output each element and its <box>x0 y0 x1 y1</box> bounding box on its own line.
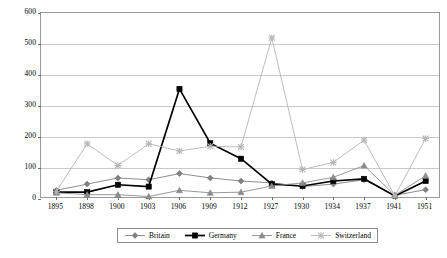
legend-item-label: France <box>276 231 296 240</box>
data-point-star <box>207 143 214 150</box>
data-point-star <box>53 188 60 195</box>
data-point-triangle <box>423 173 429 179</box>
x-axis-tick-label: 1903 <box>140 203 155 211</box>
legend-item-germany[interactable]: Germany <box>184 231 237 240</box>
data-point-diamond <box>423 187 429 193</box>
x-axis-tick-label: 1900 <box>109 203 124 211</box>
data-point-square <box>115 182 120 187</box>
legend-marker-square-icon <box>184 231 206 240</box>
data-point-star <box>299 166 306 173</box>
legend-item-france[interactable]: France <box>251 231 296 240</box>
x-axis-tick-label: 1930 <box>294 203 309 211</box>
line-chart: 0100200300400500600 18951898190019031906… <box>0 0 447 258</box>
x-axis-tick-label: 1937 <box>355 203 370 211</box>
data-point-square <box>192 233 197 238</box>
legend-item-britain[interactable]: Britain <box>124 231 170 240</box>
data-point-square <box>361 176 366 181</box>
data-point-diamond <box>132 233 138 239</box>
data-point-star <box>330 159 337 166</box>
data-point-triangle <box>176 187 182 193</box>
data-point-diamond <box>115 175 121 181</box>
series-layer <box>41 13 441 199</box>
x-axis-tick-label: 1906 <box>171 203 186 211</box>
data-point-square <box>423 178 428 183</box>
data-point-star <box>268 34 275 41</box>
data-point-diamond <box>238 178 244 184</box>
y-axis-tick-label: 500 <box>24 39 36 47</box>
x-axis-tick-label: 1927 <box>263 203 278 211</box>
x-axis-tick-label: 1951 <box>417 203 432 211</box>
data-point-square <box>177 86 182 91</box>
data-point-star <box>115 162 122 169</box>
series-switzerland <box>53 34 429 199</box>
data-point-triangle <box>361 162 367 168</box>
data-point-star <box>84 140 91 147</box>
x-axis-tick-label: 1898 <box>78 203 93 211</box>
legend-item-label: Germany <box>209 231 237 240</box>
series-line <box>56 38 425 196</box>
data-point-diamond <box>207 175 213 181</box>
data-point-star <box>238 144 245 151</box>
data-point-star <box>176 148 183 155</box>
x-axis-tick-label: 1934 <box>325 203 340 211</box>
legend-marker-diamond-icon <box>124 231 146 240</box>
legend-marker-triangle-icon <box>251 231 273 240</box>
x-axis-tick-label: 1909 <box>202 203 217 211</box>
y-axis-tick-label: 0 <box>32 194 36 202</box>
data-point-star <box>145 140 152 147</box>
data-point-square <box>238 156 243 161</box>
data-point-diamond <box>176 171 182 177</box>
x-axis-tick-label: 1895 <box>48 203 63 211</box>
y-axis-tick-label: 100 <box>24 163 36 171</box>
y-axis-tick-label: 400 <box>24 70 36 78</box>
data-point-square <box>146 184 151 189</box>
y-axis-tick-mark <box>38 199 41 200</box>
data-point-star <box>422 135 429 142</box>
data-point-diamond <box>84 181 90 187</box>
chart-legend: BritainGermanyFranceSwitzerland <box>117 228 378 243</box>
legend-item-switzerland[interactable]: Switzerland <box>310 231 371 240</box>
data-point-star <box>392 193 399 200</box>
y-axis-tick-label: 200 <box>24 132 36 140</box>
x-axis-tick-label: 1912 <box>232 203 247 211</box>
legend-marker-star-icon <box>310 231 332 240</box>
y-axis-tick-label: 600 <box>24 8 36 16</box>
x-axis-tick-label: 1941 <box>386 203 401 211</box>
data-point-star <box>361 137 368 144</box>
y-axis-tick-label: 300 <box>24 101 36 109</box>
data-point-triangle <box>330 174 336 180</box>
legend-item-label: Switzerland <box>335 231 371 240</box>
plot-area <box>40 12 440 198</box>
legend-item-label: Britain <box>149 231 170 240</box>
data-point-star <box>318 232 325 239</box>
